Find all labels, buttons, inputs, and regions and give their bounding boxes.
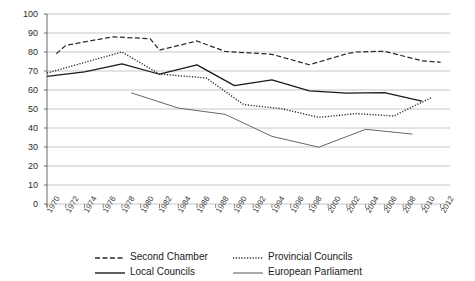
plot-area xyxy=(0,0,475,281)
y-axis-tick-label: 40 xyxy=(12,123,38,133)
legend-label: European Parliament xyxy=(268,266,362,277)
y-axis-tick-label: 70 xyxy=(12,66,38,76)
series-line-3 xyxy=(131,93,412,147)
legend-item[interactable]: Local Councils xyxy=(95,266,233,277)
y-axis-tick-label: 0 xyxy=(12,199,38,209)
y-axis-tick-label: 50 xyxy=(12,104,38,114)
y-axis-tick-label: 30 xyxy=(12,142,38,152)
series-lines xyxy=(47,37,441,147)
legend-item[interactable]: Provincial Councils xyxy=(233,251,393,262)
y-axis-tick-label: 10 xyxy=(12,180,38,190)
legend-label: Local Councils xyxy=(130,266,195,277)
legend-swatch-icon xyxy=(95,268,125,276)
gridlines xyxy=(47,14,450,204)
legend-item[interactable]: Second Chamber xyxy=(95,251,233,262)
legend-swatch-icon xyxy=(233,268,263,276)
y-axis-tick-label: 20 xyxy=(12,161,38,171)
y-axis-tick-label: 90 xyxy=(12,28,38,38)
y-axis-tick-label: 100 xyxy=(12,9,38,19)
line-chart: 1009080706050403020100 19701972197419761… xyxy=(0,0,475,281)
legend-label: Provincial Councils xyxy=(268,251,352,262)
x-tick-marks xyxy=(44,14,441,208)
legend-label: Second Chamber xyxy=(130,251,208,262)
series-line-2 xyxy=(47,64,422,101)
y-axis-tick-label: 80 xyxy=(12,47,38,57)
legend-swatch-icon xyxy=(95,253,125,261)
legend-swatch-icon xyxy=(233,253,263,261)
legend-item[interactable]: European Parliament xyxy=(233,266,393,277)
chart-legend: Second ChamberProvincial CouncilsLocal C… xyxy=(95,249,395,279)
y-axis-tick-label: 60 xyxy=(12,85,38,95)
series-line-0 xyxy=(56,37,440,65)
